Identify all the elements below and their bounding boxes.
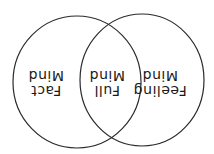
venn-diagram: Feeling Mind Full Mind Fact Mind (0, 0, 214, 154)
fact-mind-label: Fact Mind (16, 68, 76, 98)
full-mind-label: Full Mind (80, 68, 134, 98)
feeling-mind-label: Feeling Mind (124, 68, 196, 98)
